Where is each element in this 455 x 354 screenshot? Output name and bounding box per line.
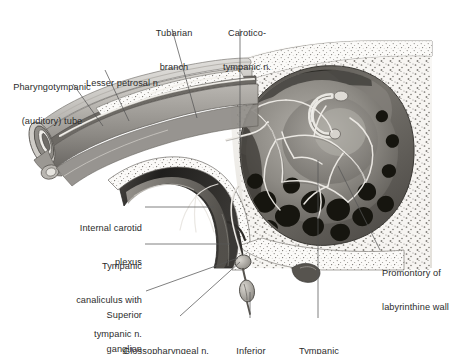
leader-line-glossopharyngeal-nerve — [180, 262, 240, 316]
leader-line-superior-ganglion — [146, 258, 238, 291]
label-line: tympanic n. — [209, 62, 285, 73]
label-tympanic-plexus: Tympanic plexus — [288, 323, 350, 354]
label-tubarian-branch: Tubarian branch — [140, 5, 208, 96]
label-caroticotympanic-nerve: Caroticо- tympanic n. — [209, 5, 285, 96]
label-line: Superior — [78, 310, 142, 321]
label-inferior-ganglion: Inferior ganglion — [222, 323, 280, 354]
label-line: Promontory of — [382, 268, 455, 279]
anatomy-figure: Pharyngotympanic (auditory) tube Lesser … — [0, 0, 455, 354]
label-line: branch — [140, 62, 208, 73]
label-line: Tympanic — [56, 261, 142, 272]
label-line: Tympanic — [288, 346, 350, 354]
label-line: Caroticо- — [209, 28, 285, 39]
label-line: labyrinthine wall — [382, 302, 455, 313]
label-glossopharyngeal-nerve-cn-ix: Glossopharyngeal n. (CN IX) — [112, 323, 220, 354]
label-line: Glossopharyngeal n. — [112, 346, 220, 354]
label-line: Inferior — [222, 346, 280, 354]
label-line: (auditory) tube — [2, 116, 102, 127]
label-promontory-of-labyrinthine-wall: Promontory of labyrinthine wall — [382, 245, 455, 336]
label-line: Internal carotid — [58, 223, 142, 234]
label-line: Tubarian — [140, 28, 208, 39]
